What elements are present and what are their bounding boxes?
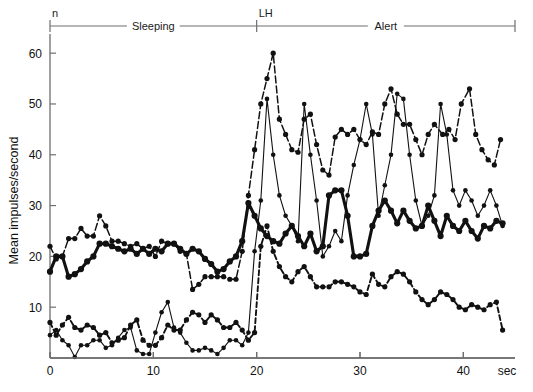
x-tick-label-redraw-0: 0 (47, 364, 54, 378)
data-point (134, 317, 139, 322)
data-point (452, 137, 457, 142)
data-point (345, 132, 350, 137)
data-point (47, 269, 53, 275)
data-point (283, 132, 288, 137)
data-point (419, 297, 424, 302)
data-point (153, 330, 158, 335)
data-point (463, 307, 468, 312)
data-point (469, 228, 475, 234)
data-point (66, 236, 71, 241)
data-point (246, 193, 251, 198)
data-point (463, 188, 468, 193)
data-point (60, 338, 65, 343)
data-point (500, 327, 505, 332)
data-point (419, 152, 424, 157)
data-point (240, 327, 245, 332)
data-point (196, 248, 202, 254)
data-point (66, 343, 71, 348)
data-point (388, 274, 393, 279)
data-point (209, 274, 214, 279)
data-point (171, 241, 176, 246)
data-point (488, 188, 493, 193)
data-point (290, 224, 295, 229)
data-point (265, 97, 270, 102)
data-point (159, 310, 164, 315)
data-point (121, 248, 127, 254)
data-point (258, 225, 264, 231)
data-point (190, 287, 195, 292)
data-point (227, 325, 232, 330)
data-point (48, 333, 53, 338)
x-tick-label-redraw-20: 20 (250, 364, 264, 378)
data-point (91, 338, 96, 343)
data-point (258, 244, 263, 249)
data-point (450, 223, 456, 229)
data-point (308, 152, 313, 157)
data-point (487, 225, 493, 231)
data-point (370, 132, 375, 137)
data-point (184, 251, 189, 256)
data-point (444, 213, 450, 219)
data-point (295, 150, 300, 155)
data-point (147, 343, 152, 348)
data-point (215, 274, 220, 279)
data-point (252, 213, 258, 219)
data-point (333, 229, 338, 234)
data-point (178, 249, 183, 254)
y-tick-label-50: 50 (29, 97, 43, 111)
data-point (339, 239, 344, 244)
data-point (326, 192, 332, 198)
data-point (47, 320, 52, 325)
x-tick-label-redraw-30: 30 (353, 364, 367, 378)
data-point (196, 312, 201, 317)
data-point (451, 188, 456, 193)
data-point (296, 239, 301, 244)
data-point (475, 305, 480, 310)
data-point (400, 208, 406, 214)
data-point (227, 258, 233, 264)
y-tick-label-10: 10 (29, 301, 43, 315)
data-point (221, 325, 226, 330)
data-point (481, 223, 487, 229)
data-point (500, 224, 505, 229)
data-point (116, 239, 121, 244)
data-point (357, 289, 362, 294)
data-point (338, 187, 344, 193)
x-tick-label-redraw-40: 40 (457, 364, 471, 378)
data-point (276, 241, 282, 247)
data-point (450, 297, 455, 302)
data-point (431, 218, 437, 224)
data-point (178, 327, 183, 332)
data-point (277, 264, 282, 269)
data-point (196, 282, 201, 287)
data-point (134, 251, 140, 257)
data-point (184, 317, 189, 322)
data-point (159, 335, 164, 340)
data-point (165, 322, 170, 327)
data-point (382, 284, 387, 289)
data-point (66, 315, 71, 320)
y-tick-label-20: 20 (29, 250, 43, 264)
data-point (345, 282, 350, 287)
data-point (413, 289, 418, 294)
data-point (351, 127, 356, 132)
data-point (295, 269, 300, 274)
data-point (283, 213, 288, 218)
data-point (54, 256, 59, 261)
data-point (479, 147, 484, 152)
data-point (103, 223, 108, 228)
data-point (426, 213, 431, 218)
data-point (128, 244, 133, 249)
data-point (388, 208, 394, 214)
data-point (47, 244, 52, 249)
data-point (283, 274, 288, 279)
data-point (413, 137, 418, 142)
data-point (462, 218, 468, 224)
data-point (345, 193, 350, 198)
data-point (240, 343, 245, 348)
data-point (320, 167, 325, 172)
data-point (376, 213, 381, 218)
data-point (84, 258, 90, 264)
data-point (382, 101, 387, 106)
data-point (389, 152, 394, 157)
